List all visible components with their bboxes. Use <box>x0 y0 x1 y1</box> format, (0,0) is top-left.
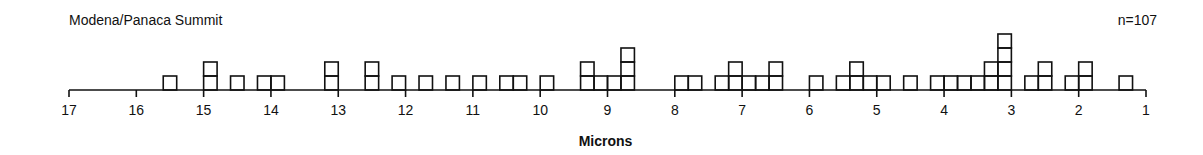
histogram-box <box>998 76 1011 90</box>
histogram-box <box>769 62 782 76</box>
histogram-box <box>621 48 634 62</box>
histogram-box <box>1038 76 1051 90</box>
histogram-box <box>621 76 634 90</box>
histogram-box <box>540 76 553 90</box>
x-tick-label: 3 <box>1007 102 1015 118</box>
histogram-box <box>877 76 890 90</box>
histogram-box <box>850 62 863 76</box>
x-tick-label: 8 <box>671 102 679 118</box>
histogram-box <box>257 76 270 90</box>
x-tick-label: 17 <box>61 102 77 118</box>
histogram-plot: 1716151413121110987654321 <box>0 0 1203 130</box>
histogram-box <box>1079 76 1092 90</box>
x-tick-label: 4 <box>940 102 948 118</box>
histogram-box <box>998 62 1011 76</box>
histogram-box <box>594 76 607 90</box>
histogram-box <box>325 62 338 76</box>
histogram-box <box>365 62 378 76</box>
histogram-box <box>621 62 634 76</box>
histogram-box <box>581 62 594 76</box>
histogram-box <box>944 76 957 90</box>
histogram-box <box>998 48 1011 62</box>
x-tick-label: 15 <box>196 102 212 118</box>
histogram-box <box>769 76 782 90</box>
histogram-box <box>365 76 378 90</box>
histogram-box <box>904 76 917 90</box>
histogram-box <box>1038 62 1051 76</box>
x-tick-label: 13 <box>330 102 346 118</box>
x-tick-label: 7 <box>738 102 746 118</box>
x-tick-label: 14 <box>263 102 279 118</box>
histogram-box <box>998 34 1011 48</box>
histogram-box <box>473 76 486 90</box>
histogram-box <box>688 76 701 90</box>
histogram-box <box>1065 76 1078 90</box>
histogram-box <box>863 76 876 90</box>
histogram-box <box>715 76 728 90</box>
histogram-box <box>756 76 769 90</box>
x-tick-label: 6 <box>806 102 814 118</box>
x-tick-label: 2 <box>1075 102 1083 118</box>
histogram-box <box>500 76 513 90</box>
histogram-box <box>446 76 459 90</box>
histogram-box <box>984 62 997 76</box>
histogram-box <box>608 76 621 90</box>
histogram-box <box>729 62 742 76</box>
histogram-box <box>931 76 944 90</box>
histogram-box <box>742 76 755 90</box>
histogram-box <box>231 76 244 90</box>
x-tick-label: 16 <box>129 102 145 118</box>
x-axis: 1716151413121110987654321 <box>61 90 1150 118</box>
histogram-box <box>809 76 822 90</box>
histogram-box <box>958 76 971 90</box>
histogram-box <box>971 76 984 90</box>
histogram-box <box>729 76 742 90</box>
histogram-box <box>1025 76 1038 90</box>
histogram-box <box>163 76 176 90</box>
histogram-box <box>1079 62 1092 76</box>
x-axis-label: Microns <box>0 133 1203 149</box>
histogram-box <box>1119 76 1132 90</box>
histogram-box <box>204 62 217 76</box>
histogram-box <box>836 76 849 90</box>
histogram-bars <box>163 34 1132 90</box>
histogram-box <box>984 76 997 90</box>
histogram-box <box>392 76 405 90</box>
histogram-box <box>419 76 432 90</box>
histogram-box <box>271 76 284 90</box>
x-tick-label: 9 <box>604 102 612 118</box>
histogram-box <box>850 76 863 90</box>
histogram-box <box>325 76 338 90</box>
histogram-box <box>204 76 217 90</box>
x-tick-label: 11 <box>466 102 481 118</box>
x-tick-label: 5 <box>873 102 881 118</box>
histogram-box <box>581 76 594 90</box>
histogram-box <box>513 76 526 90</box>
x-tick-label: 1 <box>1142 102 1150 118</box>
histogram-box <box>675 76 688 90</box>
x-tick-label: 12 <box>398 102 414 118</box>
x-tick-label: 10 <box>532 102 548 118</box>
